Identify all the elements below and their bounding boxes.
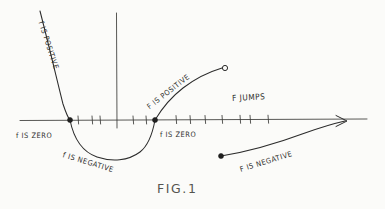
label-right-root-zero: f IS ZERO <box>160 130 196 139</box>
figure-caption: FIG.1 <box>157 181 198 196</box>
left-root-point <box>68 118 73 123</box>
curve-parabola-trough <box>70 120 155 160</box>
label-left-root-zero: f IS ZERO <box>16 131 52 140</box>
label-jump-note: F JUMPS <box>232 91 266 103</box>
right-root-point <box>153 118 158 123</box>
jump-open-endpoint <box>222 65 227 70</box>
jump-resume-point <box>219 154 224 159</box>
figure-canvas: f IS POSITIVE f IS ZERO f IS NEGATIVE f … <box>0 0 385 209</box>
y-axis <box>117 13 118 128</box>
figure-drawing <box>0 0 385 209</box>
